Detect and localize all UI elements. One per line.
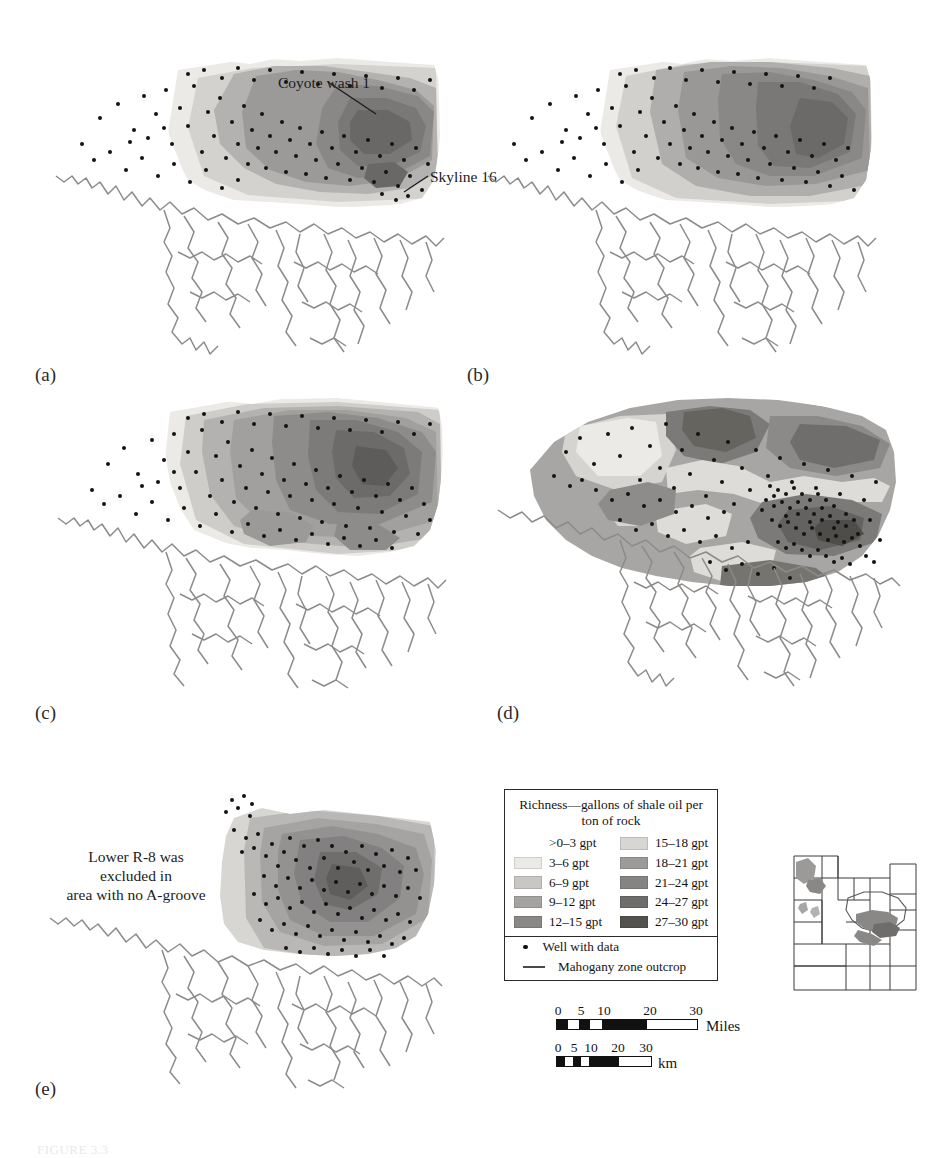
scale-tick: 0 [555,1003,562,1019]
panel-e-note-line2: excluded in [56,867,216,886]
legend-item: >0–3 gpt [505,834,611,854]
legend-label: 18–21 gpt [655,855,708,871]
map-c-svg [38,390,468,720]
scale-bar-graphic-miles [556,1019,698,1030]
legend-label: 24–27 gpt [655,894,708,910]
legend-item: 6–9 gpt [505,873,611,893]
legend-symbol-well: Well with data [505,937,717,957]
legend-swatch [514,896,542,909]
panel-e-note-line3: area with no A-groove [56,886,216,905]
legend-title-line2: ton of rock [511,813,711,829]
scale-tick: 30 [639,1040,653,1056]
legend-item: 27–30 gpt [611,912,717,932]
map-panel-a: Coyote wash 1 Skyline 16 (a) [38,52,468,382]
scale-bar-km: 0 5 10 20 30 km [556,1040,756,1067]
legend-item: 18–21 gpt [611,853,717,873]
legend-item: 24–27 gpt [611,892,717,912]
legend-label: Mahogany zone outcrop [558,959,686,975]
scale-unit-miles: Miles [706,1018,740,1035]
legend-item: 3–6 gpt [505,853,611,873]
legend-label: 3–6 gpt [549,855,589,871]
map-panel-d: (d) [470,390,910,720]
richness-contours-b [600,58,874,208]
scale-bar-miles: 0 5 10 20 30 Miles [556,1003,756,1030]
map-d-graphic [470,390,910,720]
well-dot-icon [523,945,528,950]
scale-ticks-km: 0 5 10 20 30 [556,1040,756,1056]
map-panel-e: Lower R-8 was excluded in area with no A… [38,790,468,1110]
map-e-graphic [38,790,468,1110]
legend: Richness—gallons of shale oil per ton of… [504,789,718,981]
scale-tick: 5 [578,1003,585,1019]
outcrop-line-icon [523,966,545,968]
legend-column-left: >0–3 gpt 3–6 gpt 6–9 gpt 9–12 gpt 12–15 … [505,834,611,932]
legend-label: >0–3 gpt [549,835,596,851]
annotation-coyote-wash: Coyote wash 1 [278,74,370,92]
scale-ticks-miles: 0 5 10 20 30 [556,1003,756,1019]
richness-contours-e [218,804,440,966]
scale-segment [602,1020,647,1029]
richness-contours-d [520,390,906,596]
legend-swatch [514,876,542,889]
legend-column-right: 15–18 gpt 18–21 gpt 21–24 gpt 24–27 gpt … [611,834,717,932]
figure-caption: FIGURE 3.3 [37,1142,108,1158]
panel-label-a: (a) [35,364,56,386]
legend-item: 15–18 gpt [611,834,717,854]
legend-swatch [620,876,648,889]
legend-item: 21–24 gpt [611,873,717,893]
legend-label: 12–15 gpt [549,914,602,930]
utah-inset-svg [786,848,926,998]
legend-swatch [620,837,648,850]
map-a-svg [38,52,468,382]
utah-inset-map [786,848,926,998]
legend-title-line1: Richness—gallons of shale oil per [511,797,711,813]
legend-label: 6–9 gpt [549,875,589,891]
map-e-svg [38,790,468,1110]
scale-segment [589,1057,619,1066]
map-b-graphic [470,52,900,382]
scale-tick: 5 [571,1040,578,1056]
panel-label-c: (c) [35,702,56,724]
map-panel-b: (b) [470,52,900,382]
legend-columns: >0–3 gpt 3–6 gpt 6–9 gpt 9–12 gpt 12–15 … [505,831,717,932]
legend-label: 21–24 gpt [655,875,708,891]
map-panel-c: (c) [38,390,468,720]
scale-tick: 0 [555,1040,562,1056]
legend-label: 9–12 gpt [549,894,596,910]
scale-bars: 0 5 10 20 30 Miles 0 5 10 20 30 km [556,1003,756,1067]
panel-e-note-line1: Lower R-8 was [56,848,216,867]
legend-label: Well with data [543,939,620,955]
legend-swatch [514,916,542,929]
legend-item: 12–15 gpt [505,912,611,932]
panel-label-e: (e) [35,1078,56,1100]
scale-unit-km: km [658,1055,677,1072]
legend-item: 9–12 gpt [505,892,611,912]
scale-tick: 20 [643,1003,657,1019]
panel-label-b: (b) [467,364,489,386]
map-d-svg [470,390,910,720]
scale-segment [573,1057,581,1066]
panel-label-d: (d) [497,702,519,724]
richness-contours-c [164,398,444,558]
scale-segment [579,1020,590,1029]
panel-e-note: Lower R-8 was excluded in area with no A… [56,848,216,905]
legend-swatch [620,857,648,870]
legend-label: 27–30 gpt [655,914,708,930]
map-b-svg [470,52,900,382]
scale-tick: 10 [584,1040,598,1056]
legend-swatch [620,916,648,929]
scale-bar-graphic-km [556,1056,652,1067]
map-a-graphic [38,52,468,382]
scale-tick: 30 [689,1003,703,1019]
legend-title: Richness—gallons of shale oil per ton of… [505,790,717,831]
scale-tick: 10 [597,1003,611,1019]
legend-symbol-outcrop: Mahogany zone outcrop [505,957,717,977]
scale-tick: 20 [611,1040,625,1056]
map-c-graphic [38,390,468,720]
scale-segment [557,1057,565,1066]
scale-segment [557,1020,568,1029]
legend-label: 15–18 gpt [655,835,708,851]
legend-swatch [514,837,542,850]
legend-swatch [620,896,648,909]
legend-swatch [514,857,542,870]
